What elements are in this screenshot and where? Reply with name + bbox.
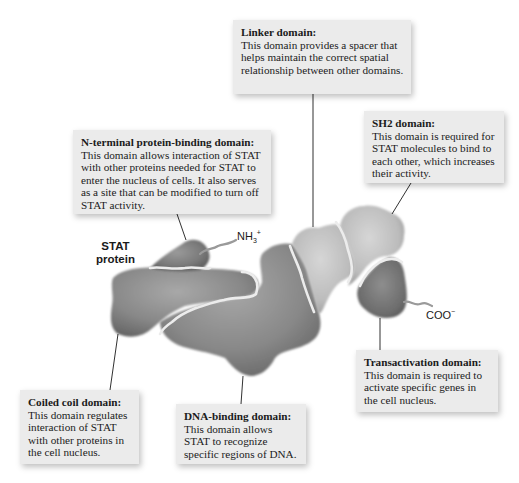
callout-linker-domain: Linker domain: This domain provides a sp… bbox=[233, 20, 411, 94]
stat-protein-label-line2: protein bbox=[96, 253, 135, 265]
c-terminus-label-base: COO bbox=[426, 309, 451, 321]
c-terminus-label: COO− bbox=[426, 308, 455, 321]
n-terminus-label-base: NH bbox=[237, 230, 253, 242]
callout-title: Coiled coil domain: bbox=[28, 396, 132, 409]
callout-body: This domain regulates interaction of STA… bbox=[28, 409, 132, 459]
stat-protein-label-line1: STAT bbox=[101, 240, 129, 252]
callout-body: This domain provides a spacer that helps… bbox=[241, 39, 404, 77]
leader-dna-binding bbox=[241, 376, 243, 404]
callout-title: DNA-binding domain: bbox=[184, 410, 299, 423]
leader-n-terminal bbox=[177, 214, 186, 240]
n-terminus-label-sub: 3 bbox=[253, 237, 257, 244]
callout-sh2-domain: SH2 domain: This domain is required for … bbox=[364, 111, 504, 183]
callout-transactivation-domain: Transactivation domain: This domain is r… bbox=[356, 350, 498, 412]
n-terminus-label: NH3+ bbox=[237, 229, 261, 244]
callout-coiled-coil-domain: Coiled coil domain: This domain regulate… bbox=[20, 390, 139, 464]
stat-protein-label: STAT protein bbox=[96, 240, 135, 266]
callout-dna-binding-domain: DNA-binding domain: This domain allows S… bbox=[176, 404, 306, 464]
c-terminus-tail bbox=[404, 302, 432, 306]
callout-title: Linker domain: bbox=[241, 26, 404, 39]
callout-body: This domain allows STAT to recognize spe… bbox=[184, 423, 299, 461]
callout-body: This domain allows interaction of STAT w… bbox=[81, 149, 264, 212]
callout-title: SH2 domain: bbox=[372, 117, 497, 130]
leader-coiled-coil bbox=[110, 334, 118, 390]
leader-sh2 bbox=[392, 183, 411, 214]
callout-body: This domain is required for STAT molecul… bbox=[372, 130, 497, 180]
callout-title: N-terminal protein-binding domain: bbox=[81, 136, 264, 149]
callout-body: This domain is required to activate spec… bbox=[364, 369, 491, 407]
boundary-nterm-coiled bbox=[150, 267, 210, 268]
callout-n-terminal-domain: N-terminal protein-binding domain: This … bbox=[73, 130, 271, 214]
n-terminus-label-sup: + bbox=[257, 229, 261, 236]
c-terminus-label-sup: − bbox=[451, 308, 455, 315]
callout-title: Transactivation domain: bbox=[364, 356, 491, 369]
